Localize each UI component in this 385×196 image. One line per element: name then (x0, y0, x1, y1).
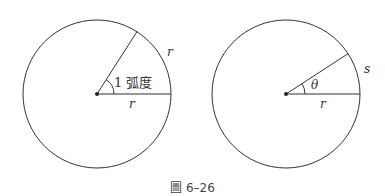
figure-caption: 圖 6–26 (0, 178, 385, 195)
right-angle-arc (302, 84, 305, 94)
right-circle-diagram (212, 20, 360, 168)
left-arc-label: r (167, 46, 173, 58)
right-angle-label: θ (311, 79, 318, 91)
left-radius-label: r (129, 98, 135, 110)
right-radius-label: r (320, 98, 326, 110)
right-center-point (284, 92, 288, 96)
left-circle-diagram (23, 20, 171, 168)
left-angle-arc (106, 80, 114, 94)
radian-diagram (0, 0, 385, 196)
right-arc-label: s (364, 63, 370, 75)
left-angle-label: 1 弧度 (114, 76, 152, 89)
left-center-point (95, 92, 99, 96)
